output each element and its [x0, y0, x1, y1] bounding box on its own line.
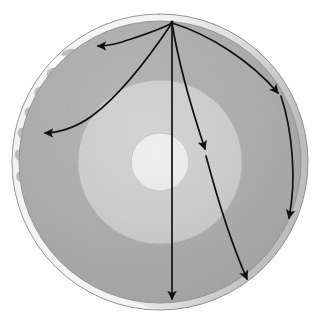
earthquake-focus-point [170, 20, 173, 23]
earth-cutaway-svg: Mantle Outer core Inner core Earth surfa… [0, 0, 313, 323]
figure-title: Earth cutaway with seismic ray paths [2, 34, 264, 51]
layer-inner-core [131, 133, 189, 191]
earth-seismic-diagram: Mantle Outer core Inner core Earth surfa… [0, 0, 313, 323]
globe-body [12, 14, 308, 310]
